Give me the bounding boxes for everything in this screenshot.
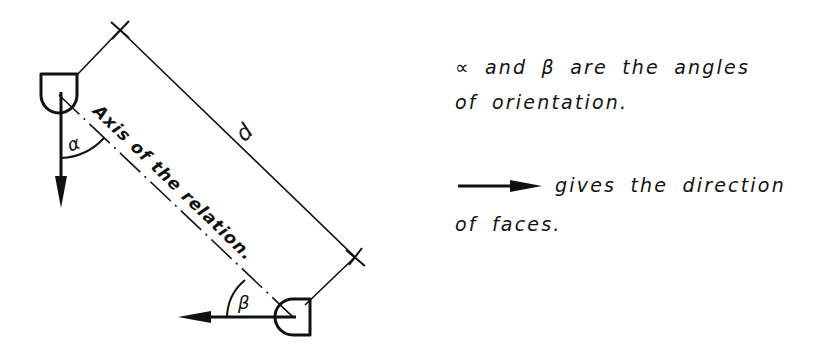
angle-beta-label: β [237, 292, 251, 313]
distance-label: d [230, 118, 258, 146]
legend-line-4: of faces. [455, 215, 562, 234]
right-arrow-icon [458, 180, 542, 192]
dimension-line-d [120, 30, 355, 257]
arrowhead-left-icon [178, 311, 211, 323]
legend-line-2: of orientation. [455, 93, 628, 112]
axis-of-relation-line [59, 95, 293, 317]
seat-symbol-a [41, 74, 77, 113]
angle-alpha-label: α [64, 131, 83, 155]
legend-line-1: ∝ and β are the angles [455, 58, 750, 77]
axis-label: Axis of the relation. [88, 99, 258, 264]
legend-line-3: gives the direction [555, 176, 786, 195]
dimension-cross-top [111, 21, 129, 39]
extension-line-bottom [305, 257, 355, 305]
arrowhead-down-icon [55, 176, 67, 208]
